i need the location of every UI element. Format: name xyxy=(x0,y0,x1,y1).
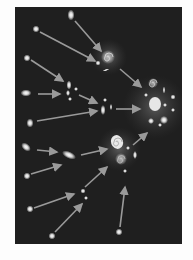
merger-arrows xyxy=(31,21,147,232)
merger-arrow xyxy=(120,69,141,87)
merger-arrow xyxy=(55,204,82,232)
merger-arrow xyxy=(85,167,107,187)
merger-arrow xyxy=(37,111,97,121)
galaxy-g1 xyxy=(68,10,75,21)
merger-arrow xyxy=(75,21,101,51)
galaxy-g6 xyxy=(20,141,33,153)
merger-arrow xyxy=(34,194,74,208)
galaxy-g2 xyxy=(33,26,40,33)
galaxy-g5 xyxy=(27,119,34,128)
galaxy-g8 xyxy=(27,206,34,213)
merger-arrow xyxy=(79,95,97,103)
galaxy-g10 xyxy=(116,229,123,236)
galaxy-g7 xyxy=(24,173,31,180)
galaxy-g3 xyxy=(24,55,31,62)
merger-arrow xyxy=(37,150,57,152)
merger-arrow xyxy=(40,32,95,61)
pair-b-group xyxy=(101,98,113,115)
trio-group xyxy=(81,189,89,201)
merger-arrow xyxy=(31,60,63,81)
galaxy-merger-panel xyxy=(15,7,182,244)
galaxy-merger-diagram xyxy=(15,7,182,244)
merger-arrow xyxy=(120,187,125,227)
merger-arrow xyxy=(31,165,61,174)
galaxy-g4 xyxy=(21,90,32,97)
galaxy-g9 xyxy=(49,233,56,240)
galaxy-g11 xyxy=(61,149,78,162)
pair-a-group xyxy=(66,81,78,102)
